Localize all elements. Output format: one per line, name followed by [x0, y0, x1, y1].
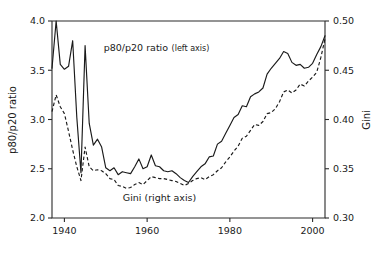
- left-tick-label: 3.5: [30, 65, 45, 76]
- left-tick-label: 2.0: [30, 212, 45, 223]
- dual-axis-line-chart: 2.02.53.03.54.0 0.300.350.400.450.50 194…: [0, 0, 382, 263]
- left-tick-label: 2.5: [30, 163, 45, 174]
- left-tick-label: 3.0: [30, 114, 45, 125]
- left-tick-label: 4.0: [30, 15, 45, 26]
- right-tick-label: 0.50: [333, 15, 354, 26]
- right-axis-title: Gini: [361, 110, 372, 130]
- gini-annotation-main: Gini (right axis): [123, 192, 196, 203]
- left-axis-title: p80/p20 ratio: [7, 86, 18, 154]
- right-tick-label: 0.40: [333, 114, 354, 125]
- p80p20-annotation-sub: (left axis): [172, 44, 210, 53]
- right-tick-label: 0.45: [333, 65, 354, 76]
- gini-annotation: Gini (right axis): [123, 192, 196, 203]
- x-tick-label: 1940: [52, 225, 76, 236]
- chart-figure: 2.02.53.03.54.0 0.300.350.400.450.50 194…: [0, 0, 382, 263]
- x-tick-label: 1960: [135, 225, 159, 236]
- right-tick-label: 0.35: [333, 163, 354, 174]
- p80p20-annotation: p80/p20 ratio(left axis): [104, 42, 210, 53]
- x-tick-label: 1980: [218, 225, 242, 236]
- x-tick-label: 2000: [300, 225, 324, 236]
- right-tick-label: 0.30: [333, 212, 354, 223]
- p80p20-annotation-main: p80/p20 ratio: [104, 42, 169, 53]
